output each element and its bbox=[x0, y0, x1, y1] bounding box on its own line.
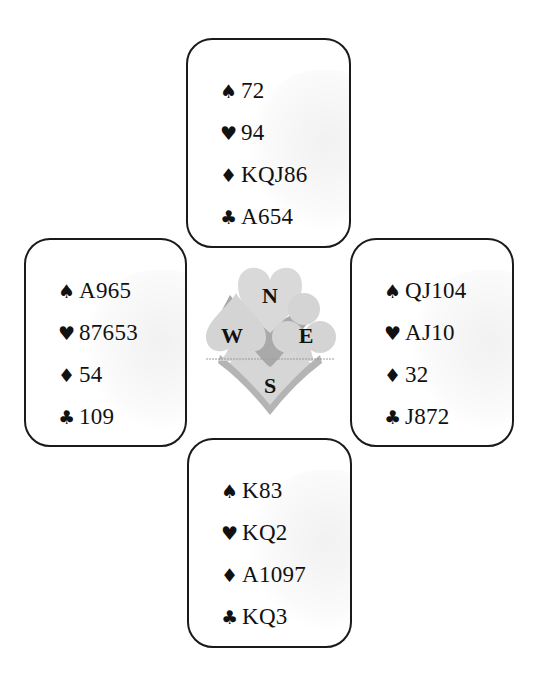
south-spades: K83 bbox=[242, 470, 283, 512]
heart-icon: ♥ bbox=[217, 512, 242, 554]
diamond-icon: ♦ bbox=[380, 354, 405, 396]
heart-icon: ♥ bbox=[216, 112, 241, 154]
spade-icon: ♠ bbox=[217, 470, 242, 512]
west-clubs: 109 bbox=[79, 396, 114, 438]
east-clubs-row: ♣J872 bbox=[380, 396, 467, 438]
club-icon: ♣ bbox=[380, 396, 405, 438]
east-clubs: J872 bbox=[405, 396, 450, 438]
club-icon: ♣ bbox=[216, 196, 241, 238]
east-diamonds-row: ♦32 bbox=[380, 354, 467, 396]
north-diamonds-row: ♦KQJ86 bbox=[216, 154, 308, 196]
south-clubs-row: ♣KQ3 bbox=[217, 596, 306, 638]
south-hearts: KQ2 bbox=[242, 512, 288, 554]
east-hearts: AJ10 bbox=[405, 312, 455, 354]
compass-south-label: S bbox=[264, 373, 276, 398]
north-hearts-row: ♥94 bbox=[216, 112, 308, 154]
east-diamonds: 32 bbox=[405, 354, 429, 396]
hand-north: ♠72 ♥94 ♦KQJ86 ♣A654 bbox=[186, 38, 351, 248]
south-diamonds-row: ♦A1097 bbox=[217, 554, 306, 596]
north-spades-row: ♠72 bbox=[216, 70, 308, 112]
north-hearts: 94 bbox=[241, 112, 265, 154]
north-clubs: A654 bbox=[241, 196, 293, 238]
west-clubs-row: ♣109 bbox=[54, 396, 138, 438]
south-spades-row: ♠K83 bbox=[217, 470, 306, 512]
diamond-icon: ♦ bbox=[54, 354, 79, 396]
north-diamonds: KQJ86 bbox=[241, 154, 308, 196]
compass-rose-icon: N W E S bbox=[200, 255, 340, 415]
east-hearts-row: ♥AJ10 bbox=[380, 312, 467, 354]
west-hearts: 87653 bbox=[79, 312, 138, 354]
club-icon: ♣ bbox=[54, 396, 79, 438]
spade-icon: ♠ bbox=[216, 70, 241, 112]
club-icon: ♣ bbox=[217, 596, 242, 638]
compass-north-label: N bbox=[262, 283, 278, 308]
south-diamonds: A1097 bbox=[242, 554, 306, 596]
east-spades-row: ♠QJ104 bbox=[380, 270, 467, 312]
north-spades: 72 bbox=[241, 70, 265, 112]
compass-west-label: W bbox=[221, 323, 243, 348]
compass-east-label: E bbox=[299, 323, 314, 348]
heart-icon: ♥ bbox=[380, 312, 405, 354]
hand-south: ♠K83 ♥KQ2 ♦A1097 ♣KQ3 bbox=[187, 438, 352, 648]
hand-west: ♠A965 ♥87653 ♦54 ♣109 bbox=[24, 238, 187, 447]
diamond-icon: ♦ bbox=[216, 154, 241, 196]
west-diamonds-row: ♦54 bbox=[54, 354, 138, 396]
diamond-icon: ♦ bbox=[217, 554, 242, 596]
south-hearts-row: ♥KQ2 bbox=[217, 512, 306, 554]
north-clubs-row: ♣A654 bbox=[216, 196, 308, 238]
west-diamonds: 54 bbox=[79, 354, 103, 396]
west-spades-row: ♠A965 bbox=[54, 270, 138, 312]
south-clubs: KQ3 bbox=[242, 596, 288, 638]
west-spades: A965 bbox=[79, 270, 131, 312]
spade-icon: ♠ bbox=[380, 270, 405, 312]
hand-east: ♠QJ104 ♥AJ10 ♦32 ♣J872 bbox=[350, 238, 514, 447]
west-hearts-row: ♥87653 bbox=[54, 312, 138, 354]
heart-icon: ♥ bbox=[54, 312, 79, 354]
spade-icon: ♠ bbox=[54, 270, 79, 312]
east-spades: QJ104 bbox=[405, 270, 467, 312]
